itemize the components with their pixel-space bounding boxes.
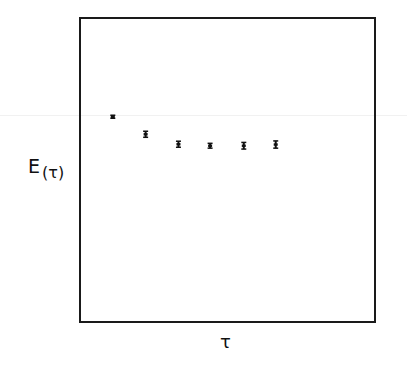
data-point <box>176 141 181 147</box>
data-point <box>273 141 278 148</box>
data-point <box>143 131 148 137</box>
data-point <box>208 143 213 148</box>
plot-area <box>0 0 407 369</box>
data-point <box>110 115 115 118</box>
y-axis-label-arg: (τ) <box>42 163 64 182</box>
y-axis-label-main: E <box>28 155 40 177</box>
data-points <box>110 115 278 149</box>
y-axis-label: E(τ) <box>28 157 64 177</box>
data-point <box>241 142 246 149</box>
x-axis-label: τ <box>220 333 231 351</box>
